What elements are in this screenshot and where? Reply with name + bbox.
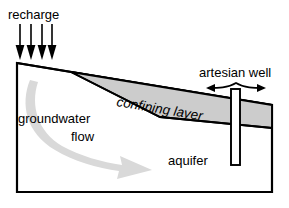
confining-layer-shape [71, 72, 272, 128]
artesian-well-casing [231, 89, 240, 165]
down-arrow-icon [48, 24, 57, 60]
diagram-canvas: recharge artesian well confining layer g… [0, 0, 289, 208]
recharge-label: recharge [8, 7, 59, 22]
down-arrow-icon [38, 24, 47, 60]
down-arrow-icon [16, 24, 25, 60]
aquifer-label: aquifer [168, 153, 208, 168]
down-arrow-icon [27, 24, 36, 60]
groundwater-label: groundwater [18, 111, 91, 126]
recharge-arrows-group [16, 24, 57, 60]
artesian-well-label: artesian well [199, 65, 271, 80]
aquifer-cross-section-diagram: recharge artesian well confining layer g… [0, 0, 289, 208]
flow-label: flow [71, 129, 95, 144]
